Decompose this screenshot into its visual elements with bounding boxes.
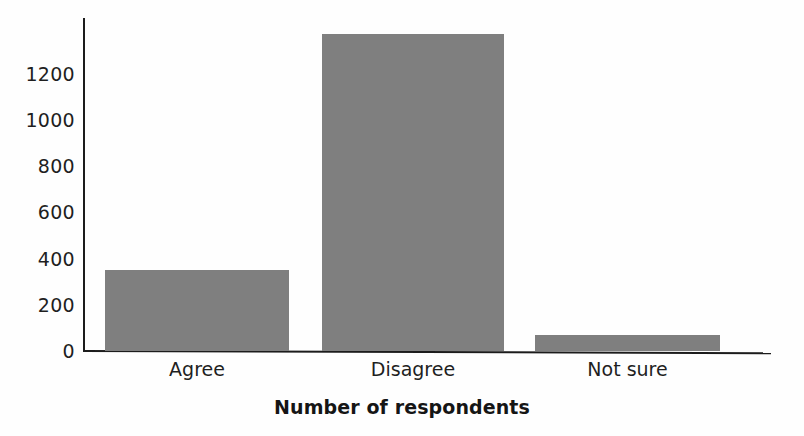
y-axis-tick-label: 800 bbox=[15, 157, 75, 176]
bar bbox=[322, 34, 504, 351]
y-axis-tick-label: 0 bbox=[15, 342, 75, 361]
x-axis-category-label: Not sure bbox=[587, 358, 667, 380]
y-axis-tick-label: 1200 bbox=[15, 65, 75, 84]
y-axis-tick-label: 200 bbox=[15, 296, 75, 315]
y-axis-tick-label: 400 bbox=[15, 250, 75, 269]
y-axis-tick-label: 1000 bbox=[15, 111, 75, 130]
bar bbox=[105, 270, 289, 351]
y-axis-tick-labels: 020040060080010001200 bbox=[9, 18, 75, 351]
x-axis-category-label: Agree bbox=[169, 358, 225, 380]
bar bbox=[535, 335, 720, 351]
bar-chart-figure: 020040060080010001200 AgreeDisagreeNot s… bbox=[0, 0, 804, 436]
x-axis-category-label: Disagree bbox=[371, 358, 455, 380]
x-axis-title: Number of respondents bbox=[0, 396, 804, 418]
y-axis-tick-label: 600 bbox=[15, 203, 75, 222]
bars-layer bbox=[83, 18, 770, 351]
